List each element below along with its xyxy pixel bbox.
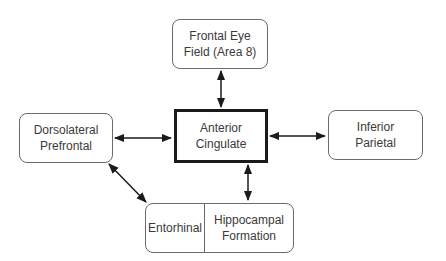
node-label: Inferior Parietal — [355, 119, 396, 151]
node-dorsolateral-prefrontal: Dorsolateral Prefrontal — [19, 113, 113, 163]
node-frontal-eye-field: Frontal Eye Field (Area 8) — [172, 19, 268, 69]
node-anterior-cingulate: Anterior Cingulate — [174, 109, 268, 163]
node-label: Entorhinal — [148, 220, 202, 236]
node-label: Frontal Eye Field (Area 8) — [184, 28, 257, 60]
node-entorhinal-hippocampal: Entorhinal Hippocampal Formation — [145, 203, 294, 253]
node-label: Anterior Cingulate — [196, 120, 247, 152]
node-entorhinal: Entorhinal — [146, 204, 205, 252]
node-label: Hippocampal Formation — [214, 212, 284, 244]
node-inferior-parietal: Inferior Parietal — [328, 110, 423, 160]
node-label: Dorsolateral Prefrontal — [34, 122, 99, 154]
node-hippocampal-formation: Hippocampal Formation — [205, 204, 293, 252]
arrow-dlpfc-entorhinal — [109, 164, 146, 202]
